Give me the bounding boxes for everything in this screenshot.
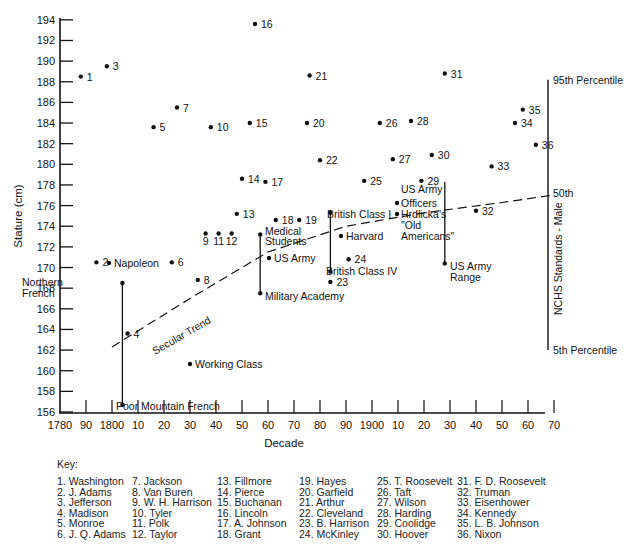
y-tick-label: 164 — [37, 323, 55, 335]
president-label: 33 — [498, 160, 510, 172]
president-label: 8 — [204, 274, 210, 286]
y-tick-label: 182 — [37, 138, 55, 150]
president-point — [513, 121, 517, 125]
x-tick-label: 90 — [80, 419, 92, 431]
x-tick-label: 1780 — [48, 419, 72, 431]
president-point — [346, 257, 350, 261]
president-label: 14 — [248, 173, 260, 185]
president-point — [175, 105, 179, 109]
y-tick-label: 156 — [37, 406, 55, 418]
president-label: 32 — [482, 205, 494, 217]
president-point — [430, 153, 434, 157]
president-label: 19 — [305, 214, 317, 226]
x-tick-label: 20 — [418, 419, 430, 431]
x-tick-label: 30 — [444, 419, 456, 431]
president-point — [391, 157, 395, 161]
president-label: 34 — [521, 117, 533, 129]
reference-point-dot — [267, 256, 271, 260]
president-label: 10 — [217, 121, 229, 133]
reference-point-dot — [188, 362, 192, 366]
reference-point-dot — [395, 212, 399, 216]
president-point — [443, 71, 447, 75]
reference-point-dot — [395, 201, 399, 205]
president-point — [318, 158, 322, 162]
y-tick-label: 184 — [37, 117, 55, 129]
key-column: 31. F. D. Roosevelt32. Truman33. Eisenho… — [457, 476, 552, 540]
president-point — [263, 180, 267, 184]
president-point — [125, 331, 129, 335]
president-label: 13 — [243, 208, 255, 220]
x-tick-label: 70 — [288, 419, 300, 431]
reference-point-label: Americans" — [401, 230, 455, 242]
reference-point-label: Harvard — [346, 230, 384, 242]
president-label: 6 — [178, 256, 184, 268]
president-point — [305, 121, 309, 125]
president-point — [240, 177, 244, 181]
president-point — [274, 218, 278, 222]
x-tick-label: 1900 — [360, 419, 384, 431]
range-bar-bottom-label: Poor Mountain French — [116, 400, 220, 412]
y-tick-label: 194 — [37, 14, 55, 26]
range-bar-top-label: British Class I — [327, 208, 391, 220]
range-bar-bottom-label: Military Academy — [265, 290, 345, 302]
y-tick-label: 176 — [37, 200, 55, 212]
reference-point-label: Working Class — [195, 358, 263, 370]
president-label: 5 — [160, 121, 166, 133]
key-column: 7. Jackson8. Van Buren9. W. H. Harrison1… — [132, 476, 217, 540]
president-label: 27 — [399, 153, 411, 165]
president-label: 16 — [261, 18, 273, 30]
range-bar-top-dot — [258, 232, 262, 236]
president-label: 23 — [336, 276, 348, 288]
key-column: 1. Washington2. J. Adams3. Jefferson4. M… — [57, 476, 132, 540]
nchs-95th-label: 95th Percentile — [553, 74, 623, 86]
president-label: 18 — [282, 214, 294, 226]
x-tick-label: 10 — [132, 419, 144, 431]
key-columns: 1. Washington2. J. Adams3. Jefferson4. M… — [57, 476, 552, 540]
key-item: 25. T. Roosevelt — [377, 476, 457, 487]
y-tick-label: 158 — [37, 385, 55, 397]
reference-point-label: US Army — [274, 252, 316, 264]
key-item: 19. Hayes — [299, 476, 377, 487]
president-label: 7 — [183, 102, 189, 114]
president-label: 26 — [386, 117, 398, 129]
president-point — [419, 179, 423, 183]
president-point — [534, 143, 538, 147]
range-bar-top-dot — [120, 281, 124, 285]
president-label: 20 — [313, 117, 325, 129]
president-point — [297, 218, 301, 222]
axes: 1561581601621641661681701721741761781801… — [37, 14, 560, 431]
range-bar-top-label: French — [22, 287, 55, 299]
x-tick-label: 10 — [392, 419, 404, 431]
president-label: 36 — [542, 139, 554, 151]
president-point — [196, 278, 200, 282]
president-label: 24 — [355, 253, 367, 265]
president-label: 28 — [417, 115, 429, 127]
y-tick-label: 170 — [37, 262, 55, 274]
president-label: 29 — [427, 175, 439, 187]
president-label: 35 — [529, 104, 541, 116]
key-item: 24. McKinley — [299, 529, 377, 540]
president-label: 4 — [134, 328, 140, 340]
president-label: 11 — [213, 235, 224, 247]
y-tick-label: 162 — [37, 344, 55, 356]
key-item: 12. Taylor — [132, 529, 217, 540]
nchs-percentile-bar: 95th Percentile50th5th PercentileNCHS St… — [548, 74, 623, 356]
president-label: 15 — [256, 117, 268, 129]
president-point — [474, 209, 478, 213]
range-bar-bottom-dot — [258, 291, 262, 295]
president-point — [151, 125, 155, 129]
president-point — [248, 121, 252, 125]
y-tick-label: 186 — [37, 96, 55, 108]
x-tick-label: 20 — [158, 419, 170, 431]
key-column: 25. T. Roosevelt26. Taft27. Wilson28. Ha… — [377, 476, 457, 540]
key-item: 1. Washington — [57, 476, 132, 487]
president-label: 30 — [438, 149, 450, 161]
president-point — [94, 260, 98, 264]
president-label: 22 — [326, 154, 338, 166]
x-tick-label: 50 — [496, 419, 508, 431]
president-label: 2 — [102, 256, 108, 268]
range-bar-bottom-label: Range — [450, 271, 481, 283]
x-tick-label: 80 — [314, 419, 326, 431]
president-point — [105, 64, 109, 68]
y-tick-label: 166 — [37, 303, 55, 315]
